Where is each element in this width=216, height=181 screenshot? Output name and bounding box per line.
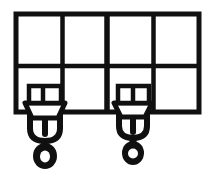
- hook-ring-hole-left: [40, 151, 50, 163]
- hook-ring-hole-right: [128, 149, 138, 159]
- figure-root: Line drawing of an overhead crane beam d…: [0, 0, 216, 181]
- crane-hoist-illustration: [0, 0, 216, 181]
